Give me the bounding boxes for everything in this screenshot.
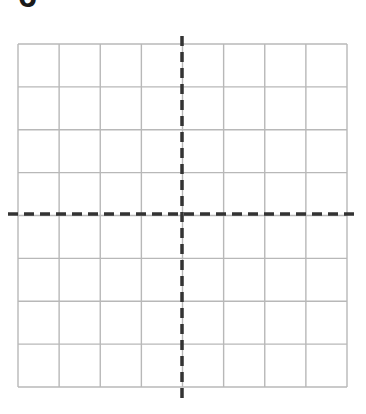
coordinate-grid xyxy=(0,0,366,414)
